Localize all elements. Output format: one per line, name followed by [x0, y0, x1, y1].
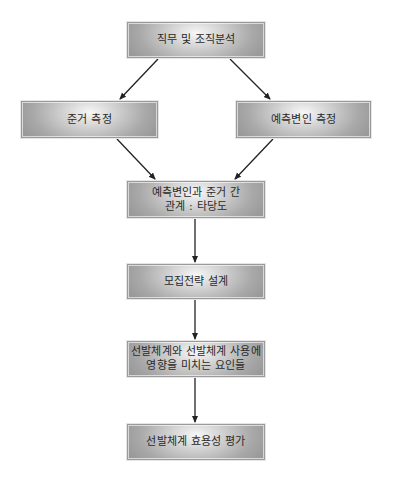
node-utility-evaluation: 선발체계 효용성 평가 — [127, 424, 265, 460]
flowchart-arrows — [0, 0, 394, 479]
node-label: 모집전략 설계 — [164, 275, 229, 289]
node-label-line2: 관계 : 타당도 — [165, 200, 227, 214]
node-label: 예측변인 측정 — [271, 113, 336, 127]
node-label: 직무 및 조직분석 — [157, 33, 236, 47]
node-validity: 예측변인과 준거 간 관계 : 타당도 — [127, 181, 265, 218]
arrow-analysis-to-criterion — [120, 59, 158, 99]
arrow-analysis-to-predictor — [230, 59, 270, 99]
node-predictor-measure: 예측변인 측정 — [236, 101, 371, 138]
node-label: 준거 측정 — [67, 113, 112, 127]
node-label-line2: 영향을 미치는 요인들 — [146, 359, 245, 373]
node-label-line1: 선발체계와 선발체계 사용에 — [131, 345, 261, 359]
arrow-criterion-to-validity — [117, 139, 155, 179]
node-label-line1: 예측변인과 준거 간 — [152, 186, 241, 200]
node-label: 선발체계 효용성 평가 — [146, 435, 245, 449]
node-job-org-analysis: 직무 및 조직분석 — [127, 22, 265, 58]
flowchart-canvas: 직무 및 조직분석 준거 측정 예측변인 측정 예측변인과 준거 간 관계 : … — [0, 0, 394, 479]
arrow-predictor-to-validity — [235, 139, 273, 179]
node-recruitment-strategy: 모집전략 설계 — [127, 264, 265, 299]
node-criterion-measure: 준거 측정 — [21, 101, 158, 138]
node-selection-factors: 선발체계와 선발체계 사용에 영향을 미치는 요인들 — [127, 341, 265, 377]
